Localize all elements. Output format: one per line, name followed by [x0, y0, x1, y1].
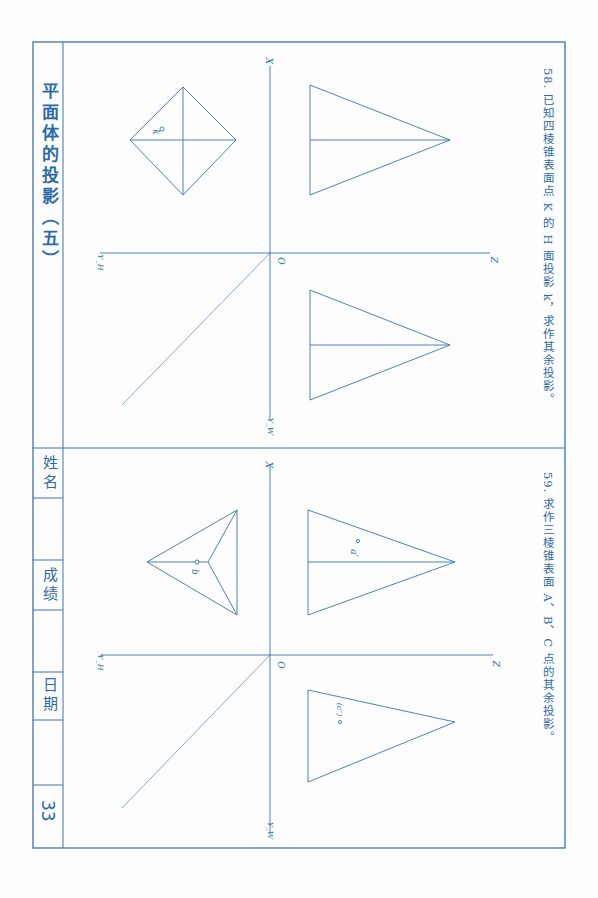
- axis-label-z: Z: [489, 257, 499, 263]
- point-label-c-double-prime: (c″): [335, 703, 344, 717]
- axis-label-yw: Y_W: [266, 822, 275, 840]
- field-label-name: 姓名: [39, 455, 60, 493]
- axis-label-o: O: [276, 257, 286, 264]
- axis-label-x: X: [264, 58, 274, 64]
- side-view: [308, 690, 455, 782]
- axis-label-z: Z: [491, 661, 501, 667]
- point-c-double-prime: [338, 720, 341, 723]
- miter-line: [122, 655, 270, 808]
- page-number: 33: [38, 800, 58, 822]
- point-label-b: b: [190, 569, 200, 575]
- axis-label-yh: Y_H: [96, 254, 105, 270]
- problem-58-number: 58.: [541, 68, 555, 89]
- field-value-date[interactable]: [34, 721, 62, 784]
- problem-59-prompt: 59. 求作三棱锥表面 A、B、C 点的其余投影。: [540, 472, 556, 744]
- field-label-date: 日期: [39, 677, 60, 715]
- outer-frame: [33, 42, 565, 848]
- front-view: [308, 510, 455, 615]
- problem-59-text: 求作三棱锥表面 A、B、C 点的其余投影。: [541, 498, 555, 744]
- field-value-name[interactable]: [34, 499, 62, 559]
- point-label-k: k: [151, 129, 161, 134]
- point-b: [195, 560, 199, 564]
- point-a-prime: [356, 539, 359, 542]
- point-label-a-prime: a′: [349, 549, 359, 556]
- field-value-score[interactable]: [34, 611, 62, 671]
- axis-label-yh: Y_H: [96, 654, 105, 670]
- axis-label-o: O: [276, 661, 286, 668]
- problem-58-text: 已知四棱锥表面点 K 的 H 面投影 k，求作其余投影。: [541, 94, 555, 406]
- axis-label-x: X: [264, 462, 274, 468]
- top-view: [147, 510, 237, 615]
- axis-label-yw: Y_W: [266, 418, 275, 436]
- miter-line: [122, 253, 270, 405]
- problem-59-number: 59.: [541, 472, 555, 493]
- sheet-title: 平面体的投影（五）: [37, 82, 62, 271]
- field-label-score: 成绩: [39, 567, 60, 605]
- problem-58-drawing: [100, 66, 490, 420]
- problem-59-drawing: [100, 466, 493, 832]
- drawing-canvas: [0, 0, 598, 898]
- problem-58-prompt: 58. 已知四棱锥表面点 K 的 H 面投影 k，求作其余投影。: [540, 68, 556, 406]
- worksheet-page: 平面体的投影（五） 姓名 成绩 日期 33 58. 已知四棱锥表面点 K 的 H…: [0, 0, 598, 898]
